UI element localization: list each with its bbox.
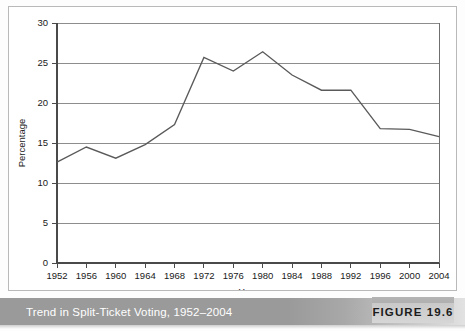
x-axis-tick-label: 1960 xyxy=(105,270,126,281)
x-axis-tick-label: 1956 xyxy=(76,270,97,281)
figure-number-badge: FIGURE 19.6 xyxy=(372,297,454,323)
x-axis-tick-label: 1972 xyxy=(193,270,214,281)
chart-frame: 0510152025301952195619601964196819721976… xyxy=(8,6,457,291)
figure-number-label: FIGURE 19.6 xyxy=(372,306,454,318)
x-axis-tick-label: 1976 xyxy=(223,270,244,281)
y-axis-tick-label: 15 xyxy=(37,137,48,148)
y-axis-tick-label: 30 xyxy=(37,17,48,28)
x-axis-tick-label: 1968 xyxy=(164,270,185,281)
x-axis-tick-label: 1980 xyxy=(252,270,273,281)
x-axis-tick-label: 1952 xyxy=(46,270,67,281)
figure-page: 0510152025301952195619601964196819721976… xyxy=(0,0,465,331)
x-axis-tick-label: 2000 xyxy=(399,270,420,281)
x-axis-tick-label: 1992 xyxy=(340,270,361,281)
x-axis-tick-label: 2004 xyxy=(428,270,449,281)
y-axis-title: Percentage xyxy=(16,119,27,168)
y-axis-tick-label: 25 xyxy=(37,57,48,68)
y-axis-tick-label: 5 xyxy=(43,217,48,228)
y-axis-tick-label: 20 xyxy=(37,97,48,108)
line-chart: 0510152025301952195619601964196819721976… xyxy=(9,7,456,290)
y-axis-tick-label: 10 xyxy=(37,177,48,188)
figure-caption-text: Trend in Split-Ticket Voting, 1952–2004 xyxy=(26,306,232,318)
caption-shadow xyxy=(0,325,465,329)
x-axis-tick-label: 1964 xyxy=(135,270,156,281)
data-series-line xyxy=(57,52,439,162)
x-axis-tick-label: 1988 xyxy=(311,270,332,281)
x-axis-tick-label: 1996 xyxy=(370,270,391,281)
x-axis-title: Year xyxy=(238,286,257,290)
y-axis-tick-label: 0 xyxy=(43,257,48,268)
x-axis-tick-label: 1984 xyxy=(282,270,303,281)
